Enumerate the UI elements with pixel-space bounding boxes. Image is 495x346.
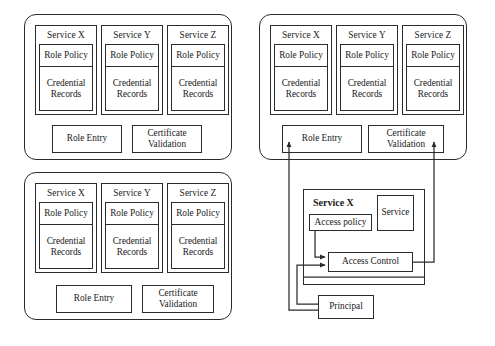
certificate-line-1: Certificate — [147, 128, 186, 140]
service-inner-frame: Role Policy Credential Records — [105, 44, 159, 111]
credential-records-cell: Credential Records — [172, 225, 224, 268]
service-inner-frame: Role Policy Credential Records — [39, 202, 93, 269]
access-control-label: Access Control — [342, 256, 399, 268]
service-title: Service X — [36, 26, 96, 44]
role-entry-label: Role Entry — [302, 133, 343, 145]
credential-line-1: Credential — [348, 78, 387, 89]
principal-label: Principal — [329, 301, 363, 313]
credential-line-1: Credential — [113, 78, 152, 89]
role-policy-cell: Role Policy — [40, 203, 92, 225]
credential-line-1: Credential — [47, 78, 86, 89]
credential-line-2: Records — [414, 89, 453, 100]
service-box-x: Service X Role Policy Credential Records — [35, 25, 97, 115]
credential-records-cell: Credential Records — [106, 67, 158, 110]
service-title: Service Y — [102, 26, 162, 44]
access-control-box: Access Control — [328, 252, 413, 272]
principal-box: Principal — [318, 295, 374, 319]
credential-records-cell: Credential Records — [40, 67, 92, 110]
service-inner-frame: Role Policy Credential Records — [406, 44, 460, 111]
service-box-z: Service Z Role Policy Credential Records — [402, 25, 464, 115]
access-policy-label: Access policy — [315, 217, 367, 229]
certificate-validation-box: Certificate Validation — [132, 125, 202, 153]
credential-line-1: Credential — [113, 236, 152, 247]
panel-top-right: Service X Role Policy Credential Records… — [259, 14, 467, 160]
certificate-line-2: Validation — [386, 139, 425, 151]
service-title: Service Z — [403, 26, 463, 44]
service-box-y: Service Y Role Policy Credential Records — [101, 183, 163, 273]
credential-line-2: Records — [47, 89, 86, 100]
role-policy-cell: Role Policy — [40, 45, 92, 67]
credential-records-cell: Credential Records — [40, 225, 92, 268]
credential-records-cell: Credential Records — [341, 67, 393, 110]
credential-line-1: Credential — [47, 236, 86, 247]
diagram-root: Service X Role Policy Credential Records… — [0, 0, 495, 346]
credential-records-cell: Credential Records — [106, 225, 158, 268]
role-policy-cell: Role Policy — [172, 203, 224, 225]
credential-line-1: Credential — [282, 78, 321, 89]
role-entry-label: Role Entry — [74, 293, 115, 305]
role-policy-cell: Role Policy — [341, 45, 393, 67]
credential-line-2: Records — [282, 89, 321, 100]
role-entry-label: Role Entry — [67, 133, 108, 145]
credential-records-cell: Credential Records — [172, 67, 224, 110]
service-title: Service X — [36, 184, 96, 202]
service-x-detail-title: Service X — [313, 197, 354, 208]
service-inner-frame: Role Policy Credential Records — [171, 202, 225, 269]
service-box-y: Service Y Role Policy Credential Records — [101, 25, 163, 115]
service-title: Service Z — [168, 26, 228, 44]
service-title: Service Y — [337, 26, 397, 44]
service-title: Service X — [271, 26, 331, 44]
certificate-validation-box: Certificate Validation — [368, 125, 444, 153]
panel-bottom-left: Service X Role Policy Credential Records… — [24, 172, 232, 320]
certificate-line-1: Certificate — [158, 288, 197, 300]
role-policy-cell: Role Policy — [106, 45, 158, 67]
role-policy-cell: Role Policy — [172, 45, 224, 67]
credential-line-2: Records — [113, 247, 152, 258]
credential-records-cell: Credential Records — [275, 67, 327, 110]
role-policy-cell: Role Policy — [407, 45, 459, 67]
service-box-z: Service Z Role Policy Credential Records — [167, 183, 229, 273]
credential-line-1: Credential — [179, 236, 218, 247]
credential-line-1: Credential — [414, 78, 453, 89]
credential-line-2: Records — [348, 89, 387, 100]
service-box-y: Service Y Role Policy Credential Records — [336, 25, 398, 115]
service-label: Service — [382, 207, 410, 219]
service-box-z: Service Z Role Policy Credential Records — [167, 25, 229, 115]
credential-line-2: Records — [47, 247, 86, 258]
role-policy-cell: Role Policy — [275, 45, 327, 67]
credential-line-1: Credential — [179, 78, 218, 89]
credential-records-cell: Credential Records — [407, 67, 459, 110]
credential-line-2: Records — [113, 89, 152, 100]
credential-line-2: Records — [179, 247, 218, 258]
service-inner-frame: Role Policy Credential Records — [274, 44, 328, 111]
service-inner-frame: Role Policy Credential Records — [340, 44, 394, 111]
certificate-line-2: Validation — [158, 299, 197, 311]
credential-line-2: Records — [179, 89, 218, 100]
service-box-x: Service X Role Policy Credential Records — [35, 183, 97, 273]
service-inner-frame: Role Policy Credential Records — [39, 44, 93, 111]
role-entry-box: Role Entry — [52, 125, 122, 153]
service-inner-frame: Role Policy Credential Records — [105, 202, 159, 269]
role-policy-cell: Role Policy — [106, 203, 158, 225]
certificate-line-1: Certificate — [386, 128, 425, 140]
certificate-validation-box: Certificate Validation — [142, 285, 214, 313]
panel-top-left: Service X Role Policy Credential Records… — [24, 14, 232, 160]
certificate-line-2: Validation — [147, 139, 186, 151]
service-box-detail: Service — [377, 195, 414, 231]
service-title: Service Z — [168, 184, 228, 202]
service-title: Service Y — [102, 184, 162, 202]
service-box-x: Service X Role Policy Credential Records — [270, 25, 332, 115]
access-policy-box: Access policy — [309, 214, 372, 231]
service-inner-frame: Role Policy Credential Records — [171, 44, 225, 111]
role-entry-box: Role Entry — [282, 125, 362, 153]
role-entry-box: Role Entry — [56, 285, 132, 313]
